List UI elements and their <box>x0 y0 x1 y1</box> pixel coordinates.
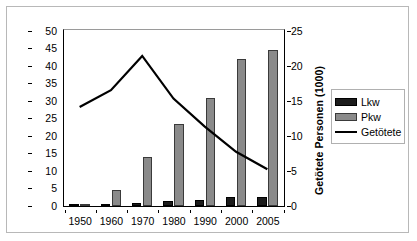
y-axis-left-tick-mark <box>28 118 32 119</box>
y-axis-left-tick-label: 15 <box>45 147 57 159</box>
y-axis-right-tick-mark <box>287 136 291 137</box>
bar-pkw-2005 <box>268 50 278 206</box>
y-axis-left-tick-mark <box>28 66 32 67</box>
y-axis-left-tick-label: 5 <box>51 182 57 194</box>
plot-area <box>63 29 285 207</box>
legend-swatch-getötete-icon <box>335 131 357 133</box>
legend-label: Lkw <box>361 96 380 108</box>
legend-item-lkw: Lkw <box>335 94 400 109</box>
bar-pkw-2000 <box>237 59 247 206</box>
bar-lkw-1980 <box>163 201 173 206</box>
x-axis-tick-label: 1990 <box>194 215 217 227</box>
y-axis-left-tick-label: 35 <box>45 77 57 89</box>
x-axis-tick-label: 2005 <box>256 215 279 227</box>
bar-pkw-1970 <box>143 157 153 206</box>
x-axis-tick-label: 1980 <box>162 215 185 227</box>
legend-label: Pkw <box>361 111 381 123</box>
y-axis-right-tick-label: 25 <box>291 25 303 37</box>
y-axis-left-tick-label: 10 <box>45 165 57 177</box>
y-axis-right-tick-label: 5 <box>291 165 297 177</box>
x-axis-tick-mark <box>284 210 285 213</box>
bar-pkw-1950 <box>80 204 90 206</box>
x-axis-ticks: 1950196019701980199020002005 <box>63 210 285 226</box>
y-axis-right-tick-mark <box>287 31 291 32</box>
y-axis-left-tick-mark <box>28 101 32 102</box>
y-axis-left-tick-label: 20 <box>45 130 57 142</box>
y-axis-left-tick-label: 25 <box>45 112 57 124</box>
y-axis-left-tick-mark <box>28 48 32 49</box>
y-axis-right-tick-mark <box>287 66 291 67</box>
x-axis-tick-mark <box>96 210 97 213</box>
bar-lkw-1950 <box>69 204 79 206</box>
x-axis-tick-mark <box>221 210 222 213</box>
y-axis-left-tick-label: 30 <box>45 95 57 107</box>
y-axis-right-tick-label: 15 <box>291 95 303 107</box>
y-axis-left-tick-label: 0 <box>51 200 57 212</box>
bar-lkw-2000 <box>226 197 236 206</box>
bar-lkw-1960 <box>101 204 111 206</box>
y-axis-left-tick-mark <box>28 31 32 32</box>
x-axis-tick-mark <box>65 210 66 213</box>
x-axis-tick-label: 1950 <box>68 215 91 227</box>
y-axis-left-tick-mark <box>28 136 32 137</box>
bar-lkw-2005 <box>257 197 267 206</box>
y-axis-left-tick-mark <box>28 171 32 172</box>
y-axis-left-tick-label: 40 <box>45 60 57 72</box>
legend-item-pkw: Pkw <box>335 109 400 124</box>
bar-lkw-1990 <box>195 200 205 206</box>
x-axis-tick-label: 1970 <box>131 215 154 227</box>
y-axis-left-tick-label: 45 <box>45 42 57 54</box>
legend-swatch-pkw-icon <box>335 113 357 121</box>
x-axis-tick-mark <box>252 210 253 213</box>
x-axis-tick-mark <box>190 210 191 213</box>
y-axis-right-tick-label: 0 <box>291 200 297 212</box>
y-axis-right-ticks: 0510152025 <box>291 29 317 207</box>
bar-pkw-1960 <box>112 190 122 206</box>
x-axis-tick-mark <box>127 210 128 213</box>
y-axis-right-tick-mark <box>287 206 291 207</box>
bar-pkw-1990 <box>206 98 216 207</box>
y-axis-left-ticks: 05101520253035404550 <box>31 29 57 207</box>
y-axis-left-tick-label: 50 <box>45 25 57 37</box>
y-axis-right-tick-mark <box>287 171 291 172</box>
y-axis-left-tick-mark <box>28 153 32 154</box>
y-axis-left-tick-mark <box>28 206 32 207</box>
bar-lkw-1970 <box>132 203 142 207</box>
chart-frame: Fahrzeuge (Mio.) Getötete Personen (1000… <box>6 6 409 233</box>
y-axis-right-tick-label: 10 <box>291 130 303 142</box>
y-axis-right-tick-mark <box>287 101 291 102</box>
x-axis-tick-label: 2000 <box>225 215 248 227</box>
y-axis-left-tick-mark <box>28 188 32 189</box>
bar-pkw-1980 <box>174 124 184 206</box>
legend-item-getötete: Getötete <box>335 124 400 139</box>
x-axis-tick-label: 1960 <box>100 215 123 227</box>
legend-label: Getötete <box>361 126 401 138</box>
x-axis-tick-mark <box>158 210 159 213</box>
y-axis-left-tick-mark <box>28 83 32 84</box>
chart-legend: LkwPkwGetötete <box>331 89 405 144</box>
legend-swatch-lkw-icon <box>335 98 357 106</box>
y-axis-right-tick-label: 20 <box>291 60 303 72</box>
